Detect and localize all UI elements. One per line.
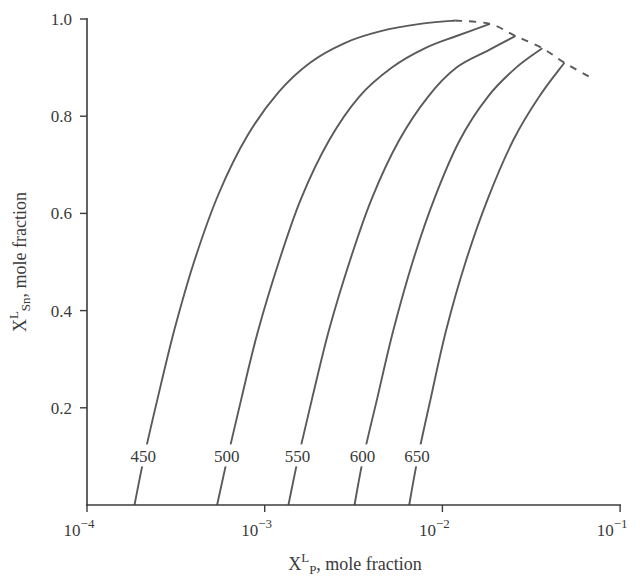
y-tick-label: 1.0 xyxy=(51,10,72,29)
curve-labels: 450500550600650 xyxy=(126,444,434,466)
x-tick-label: 10−4 xyxy=(64,516,95,540)
y-ticks: 0.20.40.60.81.0 xyxy=(51,10,87,418)
curve-label-450: 450 xyxy=(131,447,157,466)
x-tick-label: 10−2 xyxy=(419,516,450,540)
y-axis-title: XLSn, mole fraction xyxy=(6,192,33,332)
x-tick-label: 10−1 xyxy=(597,516,628,540)
x-tick-label: 10−3 xyxy=(241,516,272,540)
isotherm-curve-450 xyxy=(135,21,456,506)
isotherm-curve-650 xyxy=(409,63,564,505)
isotherm-curve-600 xyxy=(355,48,543,505)
chart: 450500550600650 0.20.40.60.81.0 10−410−3… xyxy=(0,0,640,579)
isotherm-curve-500 xyxy=(217,24,490,505)
plot-curves xyxy=(135,21,591,506)
y-tick-label: 0.2 xyxy=(51,399,72,418)
x-ticks: 10−410−310−210−1 xyxy=(64,505,628,540)
y-tick-label: 0.6 xyxy=(51,204,72,223)
y-tick-label: 0.8 xyxy=(51,107,72,126)
curve-label-550: 550 xyxy=(285,447,311,466)
curve-label-600: 600 xyxy=(350,447,376,466)
x-axis-title: XLP, mole fraction xyxy=(288,550,422,577)
curve-label-650: 650 xyxy=(404,447,430,466)
curve-label-500: 500 xyxy=(214,447,240,466)
y-tick-label: 0.4 xyxy=(51,302,73,321)
